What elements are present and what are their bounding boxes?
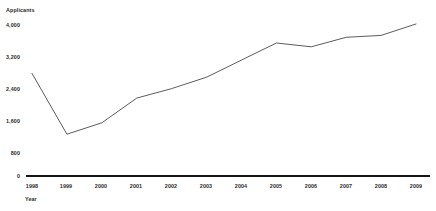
x-tick-label-2009: 2009: [404, 183, 428, 189]
x-axis-title: Year: [25, 196, 37, 202]
plot-area: [0, 0, 436, 211]
x-tick-label-1998: 1998: [20, 183, 44, 189]
x-tick-label-1999: 1999: [54, 183, 78, 189]
x-tick-label-2007: 2007: [334, 183, 358, 189]
x-axis-line: [26, 175, 430, 177]
x-tick-label-2004: 2004: [229, 183, 253, 189]
x-tick-label-2005: 2005: [264, 183, 288, 189]
x-tick-label-2003: 2003: [194, 183, 218, 189]
applicants-data-line: [32, 24, 416, 134]
x-tick-label-2006: 2006: [299, 183, 323, 189]
x-tick-label-2008: 2008: [369, 183, 393, 189]
x-tick-label-2001: 2001: [124, 183, 148, 189]
x-tick-label-2002: 2002: [159, 183, 183, 189]
x-tick-label-2000: 2000: [89, 183, 113, 189]
line-chart: Applicants 4,000 3,200 2,400 1,600 800 0…: [0, 0, 436, 211]
